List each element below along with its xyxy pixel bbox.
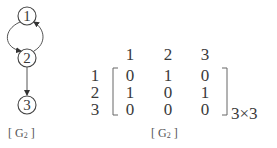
matrix-col-header-3: 3 bbox=[197, 46, 213, 63]
matrix-cell-1-2: 1 bbox=[160, 67, 176, 84]
matrix-caption-close: ] bbox=[174, 126, 178, 140]
edge-2-to-1 bbox=[34, 22, 43, 51]
matrix-caption-sub: 2 bbox=[167, 131, 171, 140]
matrix-dimension: 3×3 bbox=[231, 105, 258, 122]
matrix-col-header-1: 1 bbox=[122, 46, 138, 63]
matrix-cell-2-3: 1 bbox=[197, 84, 213, 101]
node-2-label: 2 bbox=[19, 50, 35, 67]
matrix-cell-2-2: 0 bbox=[160, 84, 176, 101]
matrix-cell-1-1: 0 bbox=[122, 67, 138, 84]
matrix-cell-3-3: 0 bbox=[197, 101, 213, 118]
graph-caption-open: [ bbox=[8, 126, 12, 140]
node-1-label: 1 bbox=[19, 8, 35, 25]
graph-caption-close: ] bbox=[31, 126, 35, 140]
matrix-right-bracket bbox=[222, 68, 227, 115]
matrix-cell-3-1: 0 bbox=[122, 101, 138, 118]
graph-caption-letter: G bbox=[15, 126, 24, 140]
graph-caption-sub: 2 bbox=[24, 131, 28, 140]
matrix-caption-letter: G bbox=[158, 126, 167, 140]
edge-1-to-2 bbox=[7, 22, 21, 51]
matrix-cell-3-2: 0 bbox=[160, 101, 176, 118]
matrix-caption-open: [ bbox=[151, 126, 155, 140]
matrix-col-header-2: 2 bbox=[160, 46, 176, 63]
matrix-cell-2-1: 1 bbox=[122, 84, 138, 101]
matrix-row-label-1: 1 bbox=[87, 67, 103, 84]
matrix-caption: [ G2 ] bbox=[151, 127, 178, 141]
node-3-label: 3 bbox=[19, 97, 35, 114]
matrix-cell-1-3: 0 bbox=[197, 67, 213, 84]
matrix-row-label-2: 2 bbox=[87, 84, 103, 101]
matrix-left-bracket bbox=[113, 68, 118, 115]
graph-caption: [ G2 ] bbox=[8, 127, 35, 141]
directed-graph bbox=[0, 0, 277, 148]
matrix-row-label-3: 3 bbox=[87, 101, 103, 118]
